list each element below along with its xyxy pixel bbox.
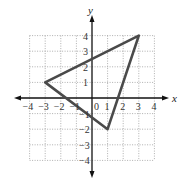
x-tick-label: 4 [151,101,156,112]
x-tick-label: 3 [136,101,141,112]
y-tick-label: 1 [83,77,88,88]
y-tick-label: 3 [83,46,88,57]
x-tick-label: −3 [38,101,49,112]
axes [14,15,169,178]
x-tick-label: 1 [105,101,110,112]
tick-labels: x y 0 −4−3−2−112344321−1−2−3−4 [23,4,177,166]
origin-label: 0 [94,101,99,112]
y-axis-arrow-up [90,15,95,22]
x-tick-label: −4 [23,101,34,112]
y-axis-arrow-down [90,171,95,178]
y-axis-label: y [87,4,93,16]
y-tick-label: −3 [79,140,90,151]
x-tick-label: −2 [54,101,65,112]
y-tick-label: −1 [79,109,90,120]
y-tick-label: −4 [79,155,90,166]
x-axis-arrow-right [162,96,169,101]
x-axis-label: x [171,92,177,104]
coordinate-plane: x y 0 −4−3−2−112344321−1−2−3−4 [0,0,186,191]
y-tick-label: 2 [83,62,88,73]
y-tick-label: 4 [83,31,88,42]
y-tick-label: −2 [79,124,90,135]
x-tick-label: 2 [120,101,125,112]
x-axis-arrow-left [14,96,21,101]
